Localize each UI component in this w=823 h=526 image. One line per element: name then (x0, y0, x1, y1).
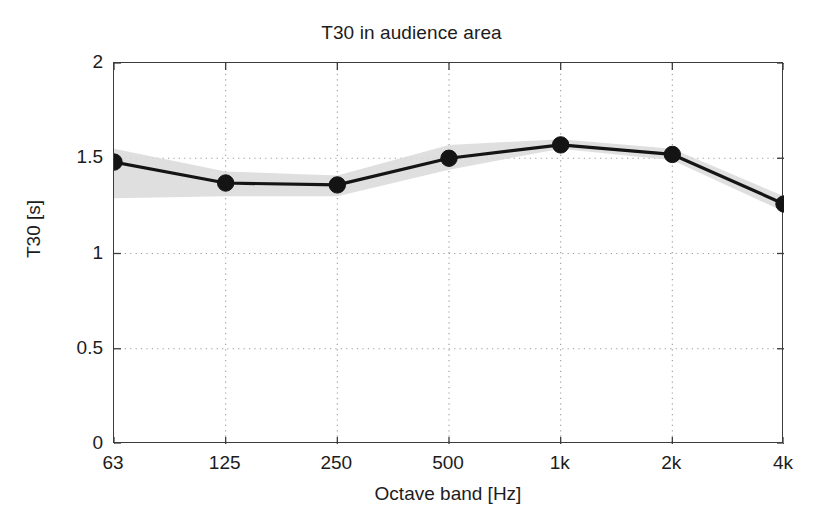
y-axis-tick-label: 1 (92, 242, 103, 264)
data-point-marker (329, 177, 345, 193)
y-axis-tick-label: 1.5 (77, 146, 103, 168)
y-axis-tick-label: 0.5 (77, 337, 103, 359)
y-axis-tick-label: 0 (92, 432, 103, 454)
x-axis-tick-label: 63 (102, 452, 123, 474)
x-axis-tick-label: 2k (661, 452, 681, 474)
y-axis-label: T30 [s] (23, 169, 45, 289)
x-axis-tick-label: 1k (550, 452, 570, 474)
x-axis-tick-label: 125 (209, 452, 241, 474)
data-point-marker (217, 175, 233, 191)
x-axis-tick-label-group: 631252505001k2k4k (113, 452, 783, 478)
x-axis-tick-label: 4k (773, 452, 793, 474)
x-axis-label: Octave band [Hz] (113, 483, 783, 505)
x-axis-tick-label: 250 (320, 452, 352, 474)
y-axis-tick-label: 2 (92, 51, 103, 73)
plot-canvas (114, 63, 784, 444)
data-point-marker (664, 146, 680, 162)
chart-figure: T30 in audience area T30 [s] 00.511.52 6… (0, 0, 823, 526)
chart-title: T30 in audience area (0, 22, 823, 44)
data-point-marker (552, 137, 568, 153)
plot-area (113, 62, 783, 443)
x-axis-tick-label: 500 (432, 452, 464, 474)
data-point-marker (441, 150, 457, 166)
y-axis-tick-label-group: 00.511.52 (50, 62, 103, 443)
